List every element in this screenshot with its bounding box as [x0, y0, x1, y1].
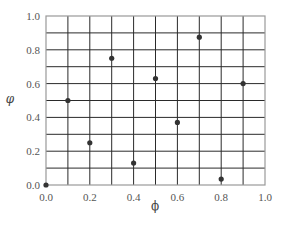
y-axis-label: φ [6, 92, 15, 106]
x-tick-label: 0.6 [171, 191, 185, 203]
y-tick-labels: 0.00.20.40.60.81.0 [26, 10, 40, 191]
y-tick-label: 0.6 [26, 78, 40, 90]
y-tick-label: 0.0 [26, 179, 40, 191]
data-points [43, 35, 245, 188]
x-tick-label: 0.2 [83, 191, 97, 203]
data-point [241, 81, 246, 86]
grid-lines [46, 16, 265, 185]
scatter-chart: 0.00.20.40.60.81.0 0.00.20.40.60.81.0 ϕ … [0, 0, 282, 226]
x-tick-label: 0.0 [39, 191, 53, 203]
x-tick-label: 0.8 [214, 191, 228, 203]
data-point [43, 182, 48, 187]
data-point [197, 35, 202, 40]
y-tick-label: 0.2 [26, 145, 40, 157]
data-point [65, 98, 70, 103]
data-point [109, 56, 114, 61]
y-tick-label: 0.8 [26, 44, 40, 56]
x-tick-label: 1.0 [258, 191, 272, 203]
data-point [219, 176, 224, 181]
x-axis-label: ϕ [151, 199, 159, 213]
y-tick-label: 0.4 [26, 111, 40, 123]
data-point [131, 160, 136, 165]
data-point [175, 120, 180, 125]
x-tick-label: 0.4 [127, 191, 141, 203]
data-point [87, 140, 92, 145]
data-point [153, 76, 158, 81]
y-tick-label: 1.0 [26, 10, 40, 22]
